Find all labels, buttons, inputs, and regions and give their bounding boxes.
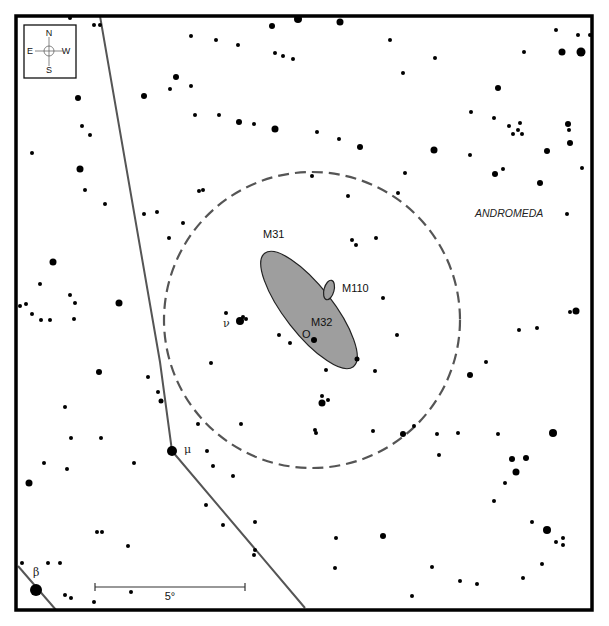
star [252,122,256,126]
star [565,121,571,127]
star [168,87,172,91]
star [535,326,539,330]
compass-e: E [27,46,33,56]
star [374,236,378,240]
star [75,95,81,101]
star [99,436,103,440]
star [69,596,73,600]
star [517,328,521,332]
star [521,576,525,580]
star [492,116,496,120]
star [337,19,344,26]
star [253,548,257,552]
star [537,180,543,186]
star [311,337,317,343]
star [565,212,569,216]
star [126,544,130,548]
star [142,212,146,216]
star [509,456,515,462]
star [469,110,473,114]
star [401,71,405,75]
star [224,311,228,315]
star [269,23,275,29]
star [156,390,160,394]
star [196,422,200,426]
star [24,302,28,306]
star [492,171,498,177]
star [573,308,580,315]
star [468,153,472,157]
star [69,436,73,440]
star [205,449,209,453]
star [507,124,511,128]
galaxy-label-o: O [302,328,311,340]
star [403,171,407,175]
star [129,590,133,594]
compass-rose: N S E W [24,25,76,78]
scale-bar-label: 5° [165,590,176,602]
star [554,28,558,32]
star [380,533,386,539]
star [576,33,580,37]
star-label: μ [184,443,191,456]
star [467,372,473,378]
star [18,304,22,308]
star [96,369,102,375]
star [132,461,136,465]
compass-w: W [62,46,71,56]
named-star [30,584,42,596]
star [116,300,123,307]
star [65,467,69,471]
star [42,461,46,465]
star [561,543,565,547]
star [26,480,33,487]
star [511,132,515,136]
star [518,121,522,125]
star [530,520,534,524]
star [355,357,360,362]
star [333,566,337,570]
star [20,561,24,565]
star [272,126,279,133]
named-star [167,446,177,456]
star [412,424,416,428]
star [193,113,197,117]
star [554,540,558,544]
star [197,189,201,193]
star [92,600,96,604]
star [320,394,324,398]
star [544,148,550,154]
star [141,93,147,99]
star [326,398,330,402]
galaxy-label-m110: M110 [342,282,369,294]
star [503,481,507,485]
star [30,151,34,155]
star [231,474,235,478]
star [559,49,566,56]
star [568,310,572,314]
star [315,130,319,134]
star [46,561,50,565]
star [288,341,292,345]
star [189,84,193,88]
star [253,520,257,524]
named-star [236,317,244,325]
star [221,523,225,527]
star [346,194,350,198]
star [98,23,102,27]
star [324,368,328,372]
star [516,128,520,132]
star [173,74,179,80]
star [201,188,205,192]
star [395,333,399,337]
star [88,133,92,137]
star [523,455,529,461]
star [209,361,213,365]
star [310,174,314,178]
star [540,562,544,566]
star-label: β [33,566,39,579]
star [204,503,208,507]
star [577,48,586,57]
star [334,536,338,540]
star [456,431,460,435]
